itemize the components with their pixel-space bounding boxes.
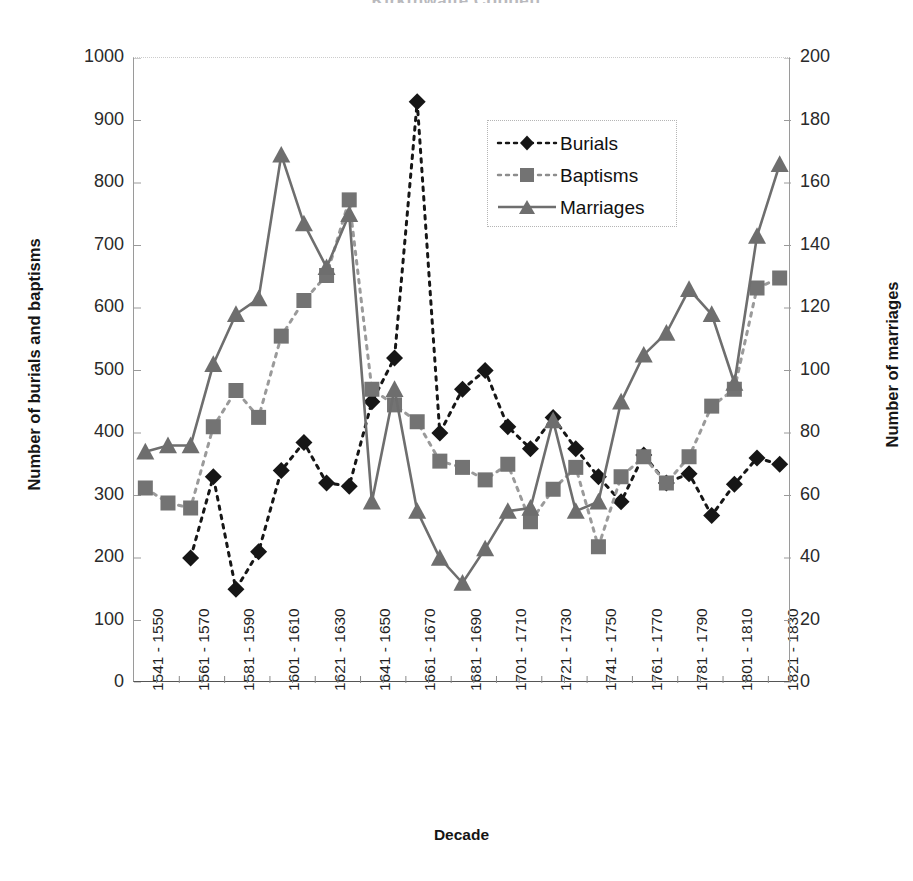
chart-title: Kirkthwaite Cobbett [0,0,913,3]
x-axis-title: Decade [133,826,790,844]
legend-item-burials[interactable]: Burials [496,127,676,159]
y-axis-left-tick-label: 0 [114,672,124,690]
y-axis-left-tick-label: 500 [94,360,124,378]
y-axis-left-tick-label: 1000 [84,47,124,65]
series-marriages [136,146,788,591]
y-axis-left-tick-label: 400 [94,422,124,440]
y-axis-left-tick-label: 600 [94,297,124,315]
y-axis-left-tick-label: 300 [94,485,124,503]
y-axis-right-tick-label: 20 [800,610,820,628]
y-axis-right-tick-label: 180 [800,110,830,128]
legend-item-marriages[interactable]: Marriages [496,191,676,223]
y-axis-right-title: Number of marriages [883,210,902,520]
legend-label-burials: Burials [560,134,618,153]
triangle-marker-icon [496,196,558,218]
y-axis-right-tick-label: 160 [800,172,830,190]
y-axis-left-tick-label: 100 [94,610,124,628]
diamond-marker-icon [496,132,558,154]
y-axis-left-title: Number of burials and baptisms [25,210,44,520]
plot-area [133,57,790,682]
y-axis-right-tick-label: 100 [800,360,830,378]
chart-figure: Kirkthwaite Cobbett Number of burials an… [0,0,913,881]
y-axis-right-tick-label: 200 [800,47,830,65]
y-axis-left-tick-label: 800 [94,172,124,190]
y-axis-left-tick-label: 700 [94,235,124,253]
plot-series-svg [134,58,791,683]
chart-legend: Burials Baptisms Marriages [487,120,677,227]
series-baptisms [138,192,787,554]
square-marker-icon [496,164,558,186]
y-axis-left-tick-label: 200 [94,547,124,565]
y-axis-right-tick-label: 80 [800,422,820,440]
y-axis-right-tick-label: 0 [800,672,810,690]
y-axis-right-tick-label: 140 [800,235,830,253]
legend-label-marriages: Marriages [560,198,644,217]
y-axis-right-tick-label: 120 [800,297,830,315]
y-axis-right-tick-label: 40 [800,547,820,565]
series-burials [182,93,788,598]
legend-item-baptisms[interactable]: Baptisms [496,159,676,191]
y-axis-right-tick-label: 60 [800,485,820,503]
y-axis-left-tick-label: 900 [94,110,124,128]
legend-label-baptisms: Baptisms [560,166,638,185]
